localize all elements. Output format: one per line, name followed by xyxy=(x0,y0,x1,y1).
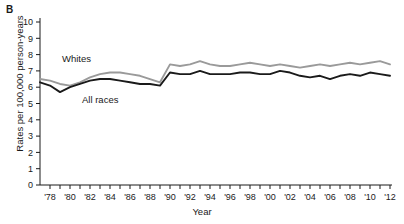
x-tick-label: '06 xyxy=(324,192,336,202)
x-tick-label: '88 xyxy=(144,192,156,202)
line-chart: 012345678910 '78'80'82'84'86'88'90'92'94… xyxy=(0,0,404,224)
x-tick-label: '02 xyxy=(284,192,296,202)
y-axis: 012345678910 xyxy=(23,17,40,190)
x-axis: '78'80'82'84'86'88'90'92'94'96'98'00'02'… xyxy=(40,185,396,202)
x-tick-label: '86 xyxy=(124,192,136,202)
x-tick-label: '80 xyxy=(64,192,76,202)
x-tick-label: '96 xyxy=(224,192,236,202)
y-tick-label: 9 xyxy=(28,34,33,44)
y-tick-label: 5 xyxy=(28,99,33,109)
y-tick-label: 10 xyxy=(23,17,33,27)
x-tick-label: '94 xyxy=(204,192,216,202)
data-series xyxy=(40,61,390,92)
x-tick-label: '84 xyxy=(104,192,116,202)
series-line-all-races xyxy=(40,71,390,92)
y-tick-label: 7 xyxy=(28,66,33,76)
x-tick-label: '04 xyxy=(304,192,316,202)
y-tick-label: 0 xyxy=(28,180,33,190)
y-tick-label: 3 xyxy=(28,131,33,141)
x-tick-label: '08 xyxy=(344,192,356,202)
y-tick-label: 1 xyxy=(28,164,33,174)
x-tick-label: '12 xyxy=(384,192,396,202)
y-tick-label: 4 xyxy=(28,115,33,125)
x-tick-label: '82 xyxy=(84,192,96,202)
y-tick-label: 8 xyxy=(28,50,33,60)
series-label-whites: Whites xyxy=(62,53,91,64)
x-tick-label: '00 xyxy=(264,192,276,202)
y-tick-label: 6 xyxy=(28,82,33,92)
x-tick-label: '10 xyxy=(364,192,376,202)
series-label-all-races: All races xyxy=(82,94,119,105)
x-tick-label: '98 xyxy=(244,192,256,202)
x-tick-label: '92 xyxy=(184,192,196,202)
x-tick-label: '90 xyxy=(164,192,176,202)
y-tick-label: 2 xyxy=(28,148,33,158)
x-tick-label: '78 xyxy=(44,192,56,202)
